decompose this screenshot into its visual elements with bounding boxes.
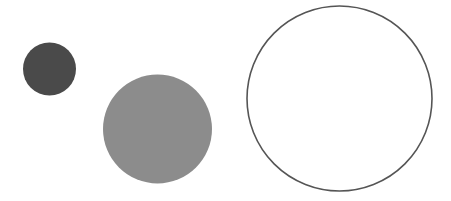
medium-gray-circle [103,75,212,184]
large-outline-circle [247,6,432,191]
diagram-canvas [0,0,451,201]
circles-diagram [0,0,451,201]
small-dark-circle [23,43,76,96]
